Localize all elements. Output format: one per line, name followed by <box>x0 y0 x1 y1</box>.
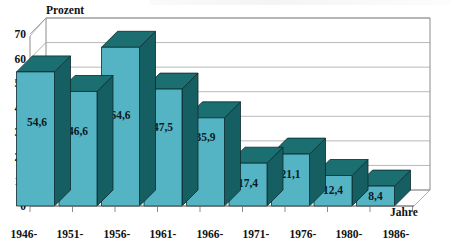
y-tick-label: 70 <box>15 28 27 40</box>
x-tick-label: 1976- <box>290 228 317 240</box>
bar-value-label: 21,1 <box>280 168 300 180</box>
x-axis-tick-labels: 1946- 1951- 1956- 1961- 1966- 1971- 1976… <box>11 228 410 240</box>
x-tick-label: 1961- <box>150 228 177 240</box>
bar-value-label: 8,4 <box>368 190 383 202</box>
bar-chart-figure: 0 10 20 30 40 50 60 70 Prozent Jahre 8,4 <box>0 0 453 242</box>
bar-value-label: 46,6 <box>68 125 88 137</box>
chart-canvas: 0 10 20 30 40 50 60 70 Prozent Jahre 8,4 <box>0 0 453 242</box>
bars-group: 8,4 12,4 21,1 17,4 <box>17 31 411 206</box>
bar-value-label: 64,6 <box>110 109 130 121</box>
bar-value-label: 35,9 <box>195 131 215 143</box>
x-axis-title: Jahre <box>390 206 418 218</box>
y-axis-title: Prozent <box>46 4 84 16</box>
x-axis-tickmarks <box>30 206 413 212</box>
bar-1951[interactable]: 54,6 <box>17 56 71 206</box>
y-tick-label: 60 <box>15 53 27 65</box>
x-tick-label: 1951- <box>57 228 84 240</box>
x-tick-label: 1966- <box>197 228 224 240</box>
x-tick-label: 1971- <box>243 228 270 240</box>
bar-value-label: 47,5 <box>153 121 173 133</box>
x-tick-label: 1980- <box>336 228 363 240</box>
x-tick-label: 1946- <box>11 228 38 240</box>
x-tick-label: 1986- <box>383 228 410 240</box>
bar-value-label: 17,4 <box>238 177 258 189</box>
bar-value-label: 54,6 <box>27 116 47 128</box>
bar-value-label: 12,4 <box>323 184 343 196</box>
floor-right-edge <box>414 190 430 206</box>
x-tick-label: 1956- <box>104 228 131 240</box>
